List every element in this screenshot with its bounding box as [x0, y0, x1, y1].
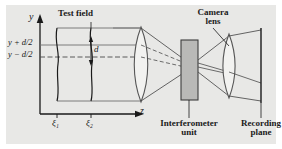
- test-field-label: Test field: [58, 9, 93, 18]
- recording-plane-label-line2: plane: [232, 128, 282, 137]
- xi1-label: ξ₁: [52, 119, 59, 128]
- interferometer-label-line2: unit: [151, 128, 227, 137]
- separation-label: d: [94, 45, 99, 54]
- xi2-label: ξ₂: [86, 119, 93, 128]
- optical-setup-figure: y z Test field y + d/2 y − d/2 d ξ₁ ξ₂ C…: [0, 0, 282, 149]
- camera-lens-label-line2: lens: [190, 17, 236, 26]
- y-minus-label: y − d/2: [8, 50, 33, 59]
- y-axis-label: y: [29, 12, 33, 23]
- interferometer-unit-block: [181, 40, 198, 100]
- y-plus-label: y + d/2: [8, 38, 33, 47]
- z-axis-label: z: [140, 106, 144, 117]
